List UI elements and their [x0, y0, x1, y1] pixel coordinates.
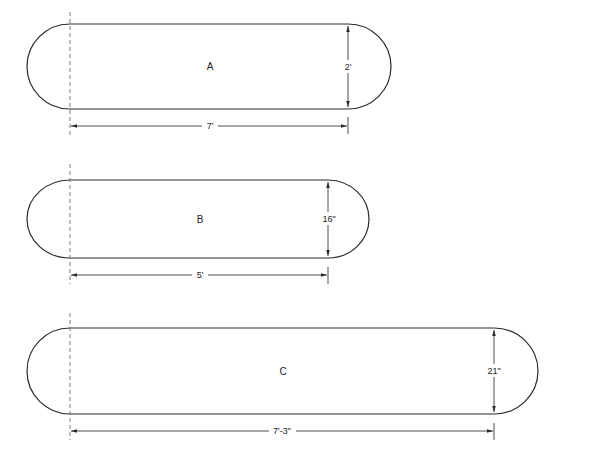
shape-a-width-label: 2'	[345, 62, 352, 72]
shape-b-length-label: 5'	[197, 270, 204, 280]
shape-c-width-label: 21"	[487, 366, 500, 376]
shape-c: C 21" 7'-3"	[27, 313, 538, 440]
shape-b: B 16" 5'	[27, 164, 369, 284]
shape-a-length-label: 7'	[207, 121, 214, 131]
shape-b-width-label: 16"	[322, 214, 335, 224]
shape-b-label: B	[197, 214, 204, 225]
shape-c-label: C	[279, 366, 286, 377]
diagram-canvas: A 2' 7' B 16" 5' C 21" 7'-3"	[0, 0, 589, 461]
shape-c-length-label: 7'-3"	[273, 426, 291, 436]
shape-a: A 2' 7'	[27, 12, 391, 135]
shape-a-label: A	[207, 61, 214, 72]
